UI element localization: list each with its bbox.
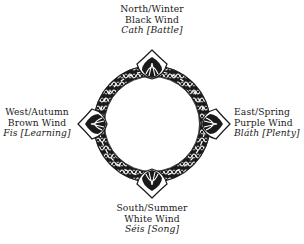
west-label: West/Autumn Brown Wind Fis [Learning] <box>0 107 74 139</box>
east-direction-season: East/Spring <box>234 107 304 118</box>
east-quality: Bláth [Plenty] <box>234 128 304 139</box>
north-quality: Cath [Battle] <box>102 25 202 36</box>
south-direction-season: South/Summer <box>102 203 202 214</box>
knot-band <box>94 66 211 183</box>
east-label: East/Spring Purple Wind Bláth [Plenty] <box>234 107 304 139</box>
north-direction-season: North/Winter <box>102 4 202 15</box>
south-quality: Séis [Song] <box>102 224 202 235</box>
west-quality: Fis [Learning] <box>0 128 74 139</box>
west-direction-season: West/Autumn <box>0 107 74 118</box>
south-label: South/Summer White Wind Séis [Song] <box>102 203 202 235</box>
north-label: North/Winter Black Wind Cath [Battle] <box>102 4 202 36</box>
